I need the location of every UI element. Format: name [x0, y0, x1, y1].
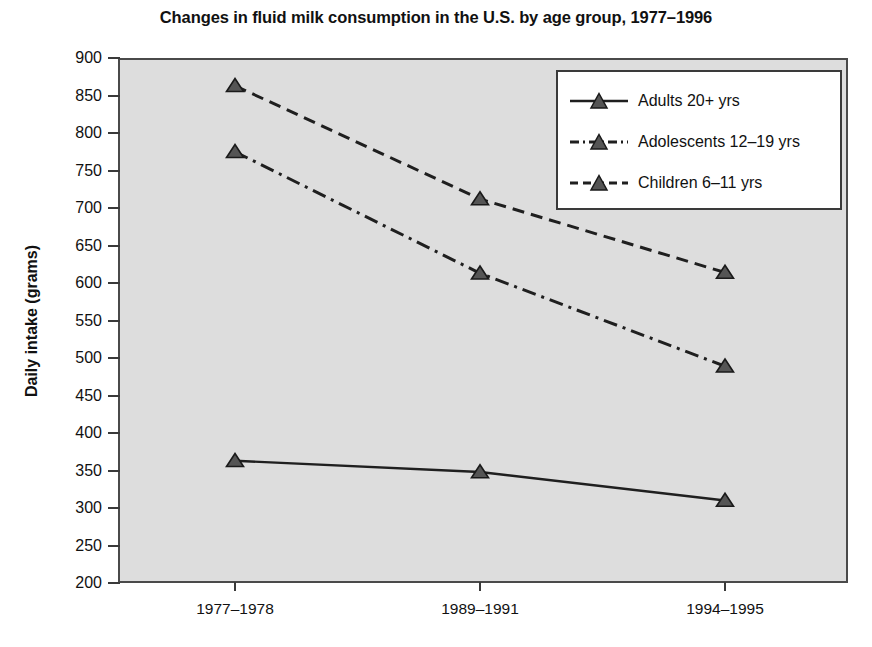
x-axis-tick-label: 1977–1978: [155, 600, 315, 618]
chart-figure: Changes in fluid milk consumption in the…: [0, 0, 872, 647]
y-axis-tick-mark: [108, 432, 120, 434]
legend-item-label: Adolescents 12–19 yrs: [630, 133, 800, 151]
y-axis-tick-mark: [108, 470, 120, 472]
legend-line-sample: [568, 88, 630, 114]
y-axis-tick-mark: [108, 57, 120, 59]
y-axis-tick-mark: [108, 395, 120, 397]
y-axis-tick-label: 300: [44, 500, 102, 516]
y-axis-tick-label: 550: [44, 313, 102, 329]
y-axis-tick-label: 650: [44, 238, 102, 254]
y-axis-tick-mark: [108, 170, 120, 172]
legend-item[interactable]: Children 6–11 yrs: [568, 168, 762, 198]
y-axis-tick-label: 850: [44, 88, 102, 104]
y-axis-tick-label: 450: [44, 388, 102, 404]
y-axis-tick-label: 350: [44, 463, 102, 479]
x-axis-tick-label: 1994–1995: [645, 600, 805, 618]
y-axis-tick-label: 250: [44, 538, 102, 554]
y-axis-tick-label: 700: [44, 200, 102, 216]
y-axis-tick-mark: [108, 545, 120, 547]
y-axis-tick-mark: [108, 282, 120, 284]
legend-item[interactable]: Adolescents 12–19 yrs: [568, 127, 800, 157]
y-axis-tick-label: 600: [44, 275, 102, 291]
y-axis-tick-mark: [108, 132, 120, 134]
x-axis-tick-mark: [234, 582, 236, 591]
y-axis-tick-mark: [108, 207, 120, 209]
y-axis-tick-label: 900: [44, 50, 102, 66]
legend-item-label: Children 6–11 yrs: [630, 174, 762, 192]
legend-item[interactable]: Adults 20+ yrs: [568, 86, 740, 116]
y-axis-tick-mark: [108, 507, 120, 509]
y-axis-tick-mark: [108, 320, 120, 322]
legend: Adults 20+ yrsAdolescents 12–19 yrsChild…: [556, 70, 842, 210]
y-axis-title: Daily intake (grams): [23, 121, 41, 521]
legend-line-sample: [568, 170, 630, 196]
y-axis-tick-label: 400: [44, 425, 102, 441]
x-axis-tick-label: 1989–1991: [400, 600, 560, 618]
legend-item-label: Adults 20+ yrs: [630, 92, 740, 110]
y-axis-tick-label: 750: [44, 163, 102, 179]
y-axis-tick-label: 200: [44, 575, 102, 591]
y-axis-tick-mark: [108, 357, 120, 359]
y-axis-tick-label: 500: [44, 350, 102, 366]
chart-title: Changes in fluid milk consumption in the…: [0, 8, 872, 27]
y-axis-tick-mark: [108, 95, 120, 97]
x-axis-tick-mark: [479, 582, 481, 591]
x-axis-tick-mark: [724, 582, 726, 591]
y-axis-tick-label: 800: [44, 125, 102, 141]
y-axis-tick-mark: [108, 245, 120, 247]
legend-line-sample: [568, 129, 630, 155]
legend-marker-icon: [591, 176, 607, 191]
y-axis-tick-mark: [108, 582, 120, 584]
